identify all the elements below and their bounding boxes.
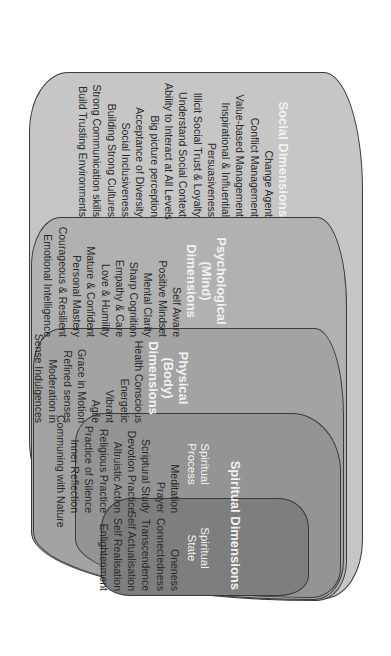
list-item: Scriptural Study: [139, 415, 153, 513]
list-item: Sharp Cognition: [127, 225, 141, 337]
social-dimensions-title: Social Dimensions: [276, 83, 291, 217]
social-dimensions-list: Change Agent Conflict Management Value-b…: [76, 83, 276, 217]
list-item: Empathy & Care: [113, 225, 127, 337]
physical-title-line2: (Body): [161, 333, 176, 423]
list-item: Acceptance of Diversity: [133, 83, 147, 217]
list-item: Sense Indulgences: [32, 333, 46, 423]
spiritual-dimensions-heading: Spiritual Dimensions: [228, 420, 243, 590]
list-item: Enlightenment: [96, 505, 110, 591]
list-item: Social Inclusiveness: [119, 83, 133, 217]
list-item: Emotional Intelligence: [41, 225, 55, 337]
list-item: Courageous & Resilient: [55, 225, 69, 337]
list-item: Love & Humility: [98, 225, 112, 337]
list-item: Mature & Confident: [84, 225, 98, 337]
list-item: Persuasiveness: [205, 83, 219, 217]
physical-dimensions-block: Physical (Body) Dimensions Health Consci…: [32, 333, 191, 423]
list-item: Vibrant: [103, 333, 117, 423]
list-item: Inner Reflection: [68, 415, 82, 513]
psychological-dimensions-list: Self Aware Positive Mindset Mental Clari…: [41, 225, 184, 337]
list-item: Altruistic Action: [111, 415, 125, 513]
list-item: Building Strong Cultures: [104, 83, 118, 217]
list-item: Positive Mindset: [155, 225, 169, 337]
list-item: Practice of Silence: [82, 415, 96, 513]
spiritual-state-list: Oneness Connectedness Transcendence Self…: [96, 505, 182, 591]
list-item: Self Aware: [170, 225, 184, 337]
list-item: Agile: [89, 333, 103, 423]
physical-title-line1: Physical: [176, 333, 191, 423]
list-item: Personal Mastery: [70, 225, 84, 337]
list-item: Meditation: [168, 415, 182, 513]
physical-title-line3: Dimensions: [146, 333, 161, 423]
list-item: Grace in Motion: [75, 333, 89, 423]
list-item: Religious Practice: [96, 415, 110, 513]
list-item: Energetic: [117, 333, 131, 423]
list-item: Big picture perception: [147, 83, 161, 217]
list-item: Mental Clarity: [141, 225, 155, 337]
list-item: Change Agent: [262, 83, 276, 217]
list-item: Inspirational & Influential: [219, 83, 233, 217]
list-item: Health Conscious: [132, 333, 146, 423]
spiritual-process-title-line2: Process: [185, 415, 198, 513]
physical-dimensions-list: Health Conscious Energetic Vibrant Agile…: [32, 333, 146, 423]
spiritual-process-list: Meditation Prayer Scriptural Study Devot…: [53, 415, 182, 513]
list-item: Self Actualisation: [125, 505, 139, 591]
spiritual-state-title-line1: Spiritual: [198, 505, 211, 591]
list-item: Build Trusting Environments: [76, 83, 90, 217]
spiritual-state-title-line2: State: [185, 505, 198, 591]
list-item: Devotion Practice: [125, 415, 139, 513]
social-dimensions-block: Social Dimensions Change Agent Conflict …: [76, 83, 291, 217]
list-item: Illicit Social Trust & Loyalty: [190, 83, 204, 217]
psychological-dimensions-block: Psychological (Mind) Dimensions Self Awa…: [41, 225, 229, 337]
list-item: Value-based Management: [233, 83, 247, 217]
psychological-title-line1: Psychological: [214, 225, 229, 337]
psychological-title-line3: Dimensions: [184, 225, 199, 337]
list-item: Moderation in: [46, 333, 60, 423]
spiritual-process-block: Spiritual Process Meditation Prayer Scri…: [53, 415, 211, 513]
dimensions-diagram: Social Dimensions Change Agent Conflict …: [0, 0, 391, 656]
list-item: Ability to Interact at All Levels: [162, 83, 176, 217]
list-item: Conflict Management: [247, 83, 261, 217]
spiritual-dimensions-title: Spiritual Dimensions: [228, 420, 243, 590]
list-item: Self Realisation: [111, 505, 125, 591]
list-item: Communing with Nature: [53, 415, 67, 513]
spiritual-process-title-line1: Spiritual: [198, 415, 211, 513]
list-item: Connectedness: [153, 505, 167, 591]
list-item: Refined senses: [60, 333, 74, 423]
list-item: Transcendence: [139, 505, 153, 591]
spiritual-state-block: Spiritual State Oneness Connectedness Tr…: [96, 505, 211, 591]
list-item: Oneness: [168, 505, 182, 591]
psychological-title-line2: (Mind): [199, 225, 214, 337]
list-item: Prayer: [153, 415, 167, 513]
list-item: Strong Communication skills: [90, 83, 104, 217]
list-item: Understand Social Context: [176, 83, 190, 217]
